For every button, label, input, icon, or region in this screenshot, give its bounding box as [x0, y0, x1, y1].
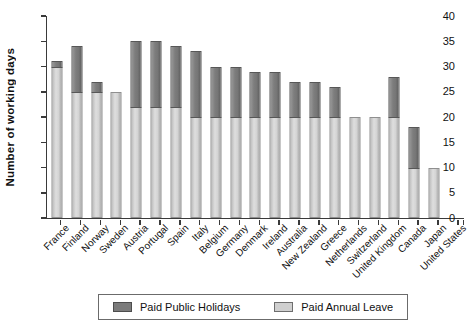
y-tick-mark: [41, 15, 46, 17]
y-tick-mark: [41, 217, 46, 219]
y-tick-mark: [41, 167, 46, 169]
bar-group-ireland: [265, 16, 285, 218]
annual-leave-segment: [190, 117, 201, 218]
bar-group-united-kingdom: [385, 16, 405, 218]
annual-leave-segment: [290, 117, 301, 218]
annual-leave-segment: [210, 117, 221, 218]
annual-leave-swatch-icon: [274, 302, 293, 312]
bar-group-portugal: [146, 16, 166, 218]
annual-leave-segment: [310, 117, 321, 218]
public-holidays-segment: [210, 67, 221, 119]
y-tick-mark: [41, 91, 46, 93]
bar-group-new-zealand: [305, 16, 325, 218]
public-holidays-segment: [409, 127, 420, 168]
y-axis-title: Number of working days: [4, 48, 16, 187]
public-holidays-segment: [250, 72, 261, 118]
annual-leave-segment: [369, 117, 380, 218]
x-tick-label: Spain: [165, 223, 190, 248]
public-holidays-segment: [51, 61, 62, 67]
bar-group-united-states: [444, 16, 464, 218]
legend-label-public-holidays: Paid Public Holidays: [140, 301, 240, 313]
bar-group-greece: [325, 16, 345, 218]
public-holidays-segment: [131, 41, 142, 108]
annual-leave-segment: [131, 107, 142, 218]
bar-group-germany: [226, 16, 246, 218]
legend-label-annual-leave: Paid Annual Leave: [301, 301, 393, 313]
annual-leave-segment: [349, 117, 360, 218]
bar-group-sweden: [107, 16, 127, 218]
y-tick-mark: [41, 116, 46, 118]
public-holidays-segment: [389, 77, 400, 118]
annual-leave-segment: [91, 92, 102, 218]
public-holidays-segment: [310, 82, 321, 118]
annual-leave-segment: [429, 168, 440, 219]
y-tick-mark: [41, 41, 46, 43]
y-tick-mark: [41, 192, 46, 194]
bar-group-france: [47, 16, 67, 218]
legend-entry-public-holidays: Paid Public Holidays: [113, 301, 240, 313]
annual-leave-segment: [329, 117, 340, 218]
bar-group-austria: [126, 16, 146, 218]
bar-group-netherlands: [345, 16, 365, 218]
public-holidays-segment: [190, 51, 201, 118]
annual-leave-segment: [171, 107, 182, 218]
stacked-bar-chart-figure: Number of working days 0510152025303540F…: [0, 0, 475, 335]
annual-leave-segment: [71, 92, 82, 218]
bar-group-denmark: [246, 16, 266, 218]
annual-leave-segment: [389, 117, 400, 218]
legend-entry-annual-leave: Paid Annual Leave: [274, 301, 393, 313]
bar-group-italy: [186, 16, 206, 218]
public-holidays-segment: [171, 46, 182, 108]
public-holidays-segment: [151, 41, 162, 108]
y-tick-mark: [41, 142, 46, 144]
bar-group-finland: [67, 16, 87, 218]
annual-leave-segment: [270, 117, 281, 218]
bar-group-canada: [404, 16, 424, 218]
x-axis-end-tick-mark: [463, 220, 465, 225]
y-tick-mark: [41, 66, 46, 68]
annual-leave-segment: [51, 67, 62, 219]
public-holidays-segment: [329, 87, 340, 118]
annual-leave-segment: [409, 168, 420, 219]
public-holidays-swatch-icon: [113, 302, 132, 312]
bar-group-norway: [87, 16, 107, 218]
bar-group-japan: [424, 16, 444, 218]
public-holidays-segment: [290, 82, 301, 118]
public-holidays-segment: [91, 82, 102, 93]
annual-leave-segment: [111, 92, 122, 218]
public-holidays-segment: [71, 46, 82, 92]
bar-group-australia: [285, 16, 305, 218]
public-holidays-segment: [230, 67, 241, 119]
bar-group-belgium: [206, 16, 226, 218]
annual-leave-segment: [250, 117, 261, 218]
legend: Paid Public Holidays Paid Annual Leave: [98, 294, 408, 320]
public-holidays-segment: [270, 72, 281, 118]
bar-group-switzerland: [365, 16, 385, 218]
bar-group-spain: [166, 16, 186, 218]
annual-leave-segment: [230, 117, 241, 218]
y-axis-title-wrap: Number of working days: [2, 16, 18, 218]
annual-leave-segment: [151, 107, 162, 218]
plot-area: 0510152025303540FranceFinlandNorwaySwede…: [46, 16, 464, 219]
